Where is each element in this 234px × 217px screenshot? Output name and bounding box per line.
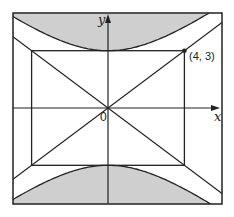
point-label: (4, 3) bbox=[189, 50, 215, 62]
hyperbola-diagram: y x 0 (4, 3) bbox=[0, 0, 234, 217]
marked-point bbox=[182, 48, 187, 53]
y-axis-label: y bbox=[97, 12, 106, 27]
x-axis-label: x bbox=[214, 109, 222, 124]
origin-label: 0 bbox=[100, 110, 107, 124]
